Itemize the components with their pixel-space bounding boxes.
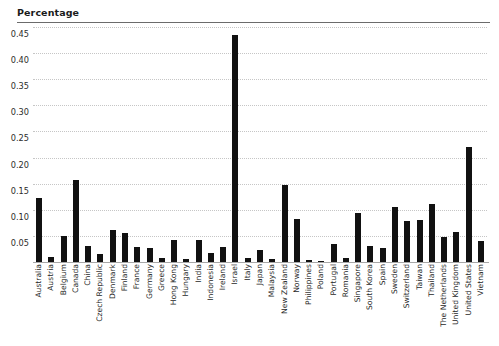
- x-axis-tick-label: Greece: [158, 264, 166, 291]
- bar: [282, 185, 288, 262]
- percentage-bar-chart: Percentage 0.450.400.350.300.250.200.150…: [0, 0, 499, 346]
- x-axis-tick-label: Norway: [293, 264, 301, 293]
- x-axis-tick-label: Sweden: [391, 264, 399, 294]
- x-axis-tick-label: Canada: [72, 264, 80, 293]
- bar: [355, 213, 361, 262]
- x-axis-tick-label: Switzerland: [403, 264, 411, 308]
- x-axis-tick-label: Hungary: [182, 264, 190, 296]
- x-axis-tick-label: Germany: [146, 264, 154, 299]
- bar: [294, 219, 300, 262]
- x-axis-tick-label: Indonesia: [207, 264, 215, 301]
- x-axis-tick-label: Poland: [317, 264, 325, 289]
- y-axis-tick-label: 0.45: [11, 29, 29, 39]
- bar: [367, 246, 373, 262]
- x-axis-tick-label: Philippines: [305, 264, 313, 305]
- x-axis-tick-label: Finland: [121, 264, 129, 291]
- x-axis-tick-label: Vietnam: [477, 264, 485, 296]
- x-axis-labels: AustraliaAustriaBelgiumCanadaChinaCzech …: [33, 264, 487, 346]
- title-divider: [17, 22, 490, 23]
- bar: [380, 248, 386, 262]
- bar: [306, 260, 312, 262]
- x-axis-tick-label: China: [84, 264, 92, 286]
- x-axis-tick-label: Malaysia: [268, 264, 276, 297]
- x-axis-tick-label: Romania: [342, 264, 350, 297]
- bar: [220, 247, 226, 262]
- x-axis-tick-label: France: [133, 264, 141, 289]
- x-axis-tick-label: Belgium: [60, 264, 68, 295]
- y-axis-tick-label: 0.10: [11, 212, 29, 222]
- bar: [478, 241, 484, 262]
- y-axis-tick-label: 0.30: [11, 107, 29, 117]
- bar: [183, 259, 189, 262]
- bar: [392, 207, 398, 262]
- y-axis-tick-label: 0.35: [11, 81, 29, 91]
- bar: [257, 250, 263, 262]
- bar: [85, 246, 91, 262]
- x-axis-tick-label: Thailand: [428, 264, 436, 297]
- bar: [159, 258, 165, 262]
- bar: [245, 258, 251, 262]
- x-axis-tick-label: Denmark: [109, 264, 117, 299]
- bar: [73, 180, 79, 262]
- bar: [36, 198, 42, 262]
- x-axis-tick-label: United States: [465, 264, 473, 315]
- y-axis-tick-label: 0.05: [11, 238, 29, 248]
- x-axis-tick-label: Spain: [379, 264, 387, 285]
- bar: [429, 204, 435, 262]
- bar: [331, 244, 337, 262]
- bar: [318, 261, 324, 262]
- x-axis-tick-label: India: [195, 264, 203, 283]
- x-axis-tick-label: The Netherlands: [440, 264, 448, 327]
- x-axis-tick-label: Ireland: [219, 264, 227, 290]
- bar: [343, 258, 349, 262]
- bar: [110, 230, 116, 262]
- bar: [147, 248, 153, 262]
- bar: [61, 236, 67, 262]
- x-axis-tick-label: Czech Republic: [96, 264, 104, 322]
- x-axis-tick-label: Austria: [47, 264, 55, 291]
- bar: [417, 220, 423, 262]
- x-axis-tick-label: Israel: [231, 264, 239, 285]
- x-axis-tick-label: Italy: [244, 264, 252, 280]
- y-axis-tick-label: 0.25: [11, 133, 29, 143]
- y-axis-tick-label: 0.15: [11, 186, 29, 196]
- bar: [134, 247, 140, 262]
- x-axis-tick-label: New Zealand: [281, 264, 289, 314]
- x-axis-tick-label: Australia: [35, 264, 43, 298]
- x-axis-tick-label: Taiwan: [416, 264, 424, 290]
- y-axis-tick-label: 0.40: [11, 55, 29, 65]
- x-axis-tick-label: South Korea: [366, 264, 374, 310]
- x-axis-tick-label: Hong Kong: [170, 264, 178, 305]
- bar: [453, 232, 459, 262]
- x-axis-tick-label: United Kingdom: [452, 264, 460, 325]
- bar: [196, 240, 202, 262]
- bar: [208, 253, 214, 262]
- bar: [122, 233, 128, 262]
- bar: [269, 259, 275, 262]
- bar: [48, 257, 54, 262]
- x-axis-tick-label: Singapore: [354, 264, 362, 302]
- x-axis-tick-label: Japan: [256, 264, 264, 285]
- bar-series: [33, 27, 487, 262]
- bar: [171, 240, 177, 262]
- y-axis-tick-label: 0.20: [11, 160, 29, 170]
- bar: [466, 147, 472, 262]
- x-axis-tick-label: Portugal: [330, 264, 338, 295]
- bar: [97, 254, 103, 262]
- bar: [441, 237, 447, 262]
- bar: [232, 35, 238, 262]
- chart-title: Percentage: [17, 7, 79, 18]
- bar: [404, 221, 410, 262]
